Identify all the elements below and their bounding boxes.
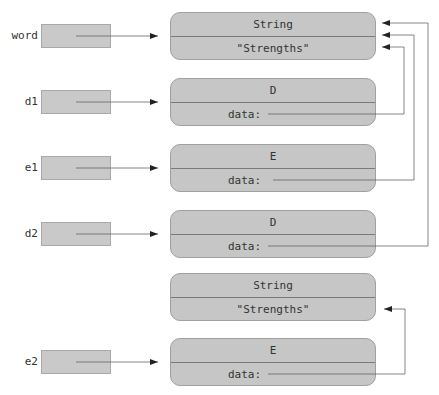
arrow-e2-data [268,309,405,374]
reference-arrows [0,0,439,395]
arrow-e1-data [273,35,414,180]
arrow-d1-data [268,47,404,114]
